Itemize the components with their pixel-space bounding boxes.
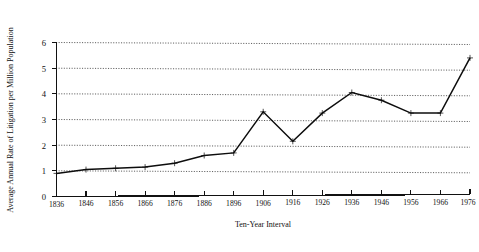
y-tick-label-3: 3 bbox=[42, 115, 46, 125]
gridline-y-4 bbox=[56, 94, 470, 96]
x-tick-label-14: 1976 bbox=[460, 198, 475, 207]
x-tick-label-4: 1876 bbox=[167, 199, 182, 208]
gridline-y-3 bbox=[56, 120, 470, 122]
data-point-1856 bbox=[113, 165, 119, 171]
x-tick-label-9: 1926 bbox=[315, 198, 330, 207]
data-point-1846 bbox=[83, 167, 89, 173]
gridline-y-5 bbox=[56, 68, 470, 70]
gridline-y-2 bbox=[56, 145, 470, 147]
y-tick-labels: 6 5 4 3 2 1 0 bbox=[42, 38, 47, 202]
x-tick-label-7: 1906 bbox=[256, 199, 271, 208]
x-tick-label-6: 1896 bbox=[226, 199, 241, 208]
y-tick-label-4: 4 bbox=[42, 89, 47, 99]
x-tick-label-5: 1886 bbox=[197, 199, 212, 208]
x-tick-label-10: 1936 bbox=[344, 198, 359, 207]
data-point-1976 bbox=[467, 55, 473, 61]
x-tick-labels: 1836 1846 1856 1866 1876 1886 1896 1906 … bbox=[49, 198, 476, 209]
data-point-1876 bbox=[172, 160, 178, 166]
data-markers bbox=[54, 55, 474, 176]
y-tick-label-6: 6 bbox=[42, 38, 47, 48]
data-series-litigation-rate bbox=[54, 55, 474, 176]
y-tick-label-0: 0 bbox=[42, 192, 46, 202]
x-tick-label-2: 1856 bbox=[108, 199, 123, 208]
y-tick-label-5: 5 bbox=[42, 64, 46, 74]
x-tick-label-8: 1916 bbox=[285, 198, 300, 207]
x-tick-label-11: 1946 bbox=[374, 198, 389, 207]
data-point-1886 bbox=[201, 153, 207, 159]
gridline-y-1 bbox=[56, 171, 470, 173]
x-tick-label-3: 1866 bbox=[138, 199, 153, 208]
chart-canvas: 6 5 4 3 2 1 0 1836 1846 1856 1866 1876 1… bbox=[0, 0, 479, 252]
data-point-1946 bbox=[378, 97, 384, 103]
y-tick-label-2: 2 bbox=[42, 141, 46, 151]
data-line-path bbox=[57, 58, 471, 173]
gridline-y-6 bbox=[56, 43, 470, 45]
data-point-1956 bbox=[408, 110, 414, 116]
gridlines bbox=[56, 43, 470, 173]
line-chart-figure: 6 5 4 3 2 1 0 1836 1846 1856 1866 1876 1… bbox=[0, 0, 479, 252]
y-axis-title: Average Annual Rate of Litigation per Mi… bbox=[6, 27, 15, 212]
x-tick-label-0: 1836 bbox=[49, 200, 64, 209]
x-tick-label-1: 1846 bbox=[78, 199, 93, 208]
y-tick-label-1: 1 bbox=[42, 166, 46, 176]
data-point-1866 bbox=[142, 164, 148, 170]
data-point-1966 bbox=[437, 110, 443, 116]
x-tick-label-13: 1966 bbox=[433, 198, 448, 207]
x-tick-label-12: 1956 bbox=[403, 198, 418, 207]
x-axis-title: Ten-Year Interval bbox=[235, 220, 292, 229]
